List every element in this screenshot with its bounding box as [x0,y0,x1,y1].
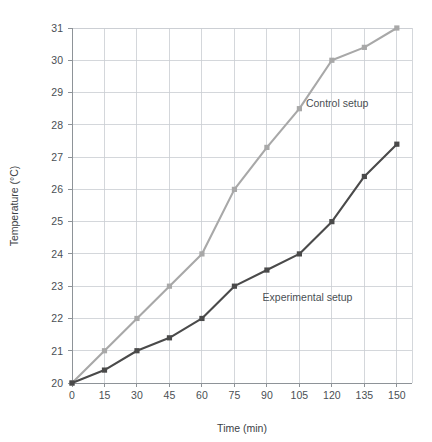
data-point-marker [264,267,269,272]
data-point-marker [232,284,237,289]
y-tick-label: 24 [51,248,63,260]
axes [72,28,412,383]
tick-marks [68,28,397,387]
x-tick-label: 120 [323,389,341,401]
y-tick-label: 20 [51,377,63,389]
series-annotations: Control setupExperimental setup [263,97,369,303]
data-point-marker [199,251,204,256]
data-point-marker [362,45,367,50]
data-point-marker [199,316,204,321]
y-tick-label: 25 [51,215,63,227]
y-tick-label: 31 [51,22,63,34]
x-tick-label: 45 [164,389,176,401]
x-tick-label: 150 [388,389,406,401]
data-point-marker [167,284,172,289]
y-tick-label: 28 [51,119,63,131]
y-tick-label: 22 [51,312,63,324]
series-label-experimental: Experimental setup [263,291,353,303]
x-tick-label: 90 [261,389,273,401]
x-tick-label: 75 [229,389,241,401]
x-tick-label: 60 [196,389,208,401]
data-point-marker [297,251,302,256]
y-tick-label: 23 [51,280,63,292]
data-point-marker [134,316,139,321]
grid-lines [72,28,412,383]
x-tick-label: 0 [69,389,75,401]
y-tick-label: 27 [51,151,63,163]
data-point-marker [264,145,269,150]
data-point-marker [167,335,172,340]
data-point-marker [134,348,139,353]
chart-canvas: 202122232425262728293031 015304560759010… [0,0,432,442]
data-point-marker [102,348,107,353]
x-axis-tick-labels: 0153045607590105120135150 [69,389,406,401]
data-point-marker [394,25,399,30]
y-tick-label: 29 [51,86,63,98]
y-tick-label: 30 [51,54,63,66]
data-point-marker [329,219,334,224]
data-point-marker [232,187,237,192]
x-tick-label: 105 [291,389,309,401]
temperature-vs-time-chart: 202122232425262728293031 015304560759010… [0,0,432,442]
data-point-marker [69,380,74,385]
y-axis-title: Temperature (°C) [8,166,20,247]
series-label-control: Control setup [306,97,369,109]
x-tick-label: 15 [99,389,111,401]
y-tick-label: 21 [51,345,63,357]
data-point-marker [329,58,334,63]
x-tick-label: 135 [356,389,374,401]
data-point-marker [102,367,107,372]
y-axis-tick-labels: 202122232425262728293031 [51,22,63,389]
y-tick-label: 26 [51,183,63,195]
x-tick-label: 30 [131,389,143,401]
data-point-marker [394,142,399,147]
data-point-marker [297,106,302,111]
data-point-marker [362,174,367,179]
x-axis-title: Time (min) [217,422,267,434]
